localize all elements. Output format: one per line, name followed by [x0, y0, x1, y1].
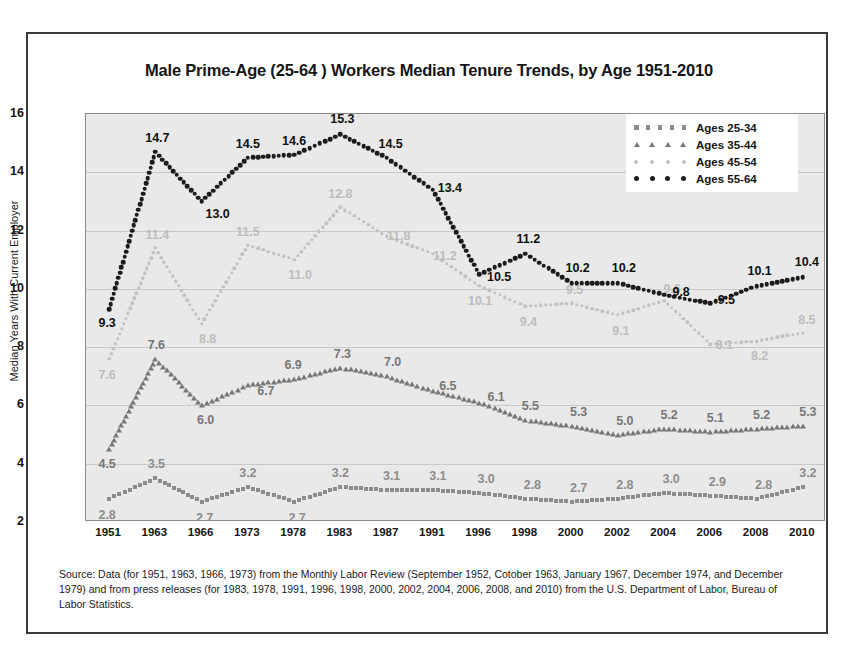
data-label: 5.2	[753, 408, 770, 422]
data-label: 11.8	[387, 229, 411, 243]
legend-item-ages-45-54[interactable]: Ages 45-54	[632, 153, 792, 170]
data-point-marker	[142, 186, 147, 191]
data-label: 2.8	[755, 478, 772, 492]
data-label: 3.0	[662, 472, 679, 486]
data-label: 9.8	[672, 285, 689, 299]
x-tick-label: 1963	[142, 526, 168, 538]
data-label: 8.8	[199, 332, 216, 346]
data-label: 8.1	[716, 338, 733, 352]
data-point-marker	[307, 146, 312, 151]
data-point-marker	[482, 270, 487, 275]
legend-item-ages-35-44[interactable]: Ages 35-44	[632, 136, 792, 153]
data-point-marker	[657, 291, 662, 296]
x-tick-label: 1991	[419, 526, 445, 538]
x-tick-label: 2004	[650, 526, 676, 538]
data-point-marker	[605, 281, 610, 286]
data-point-marker	[626, 283, 631, 288]
data-label: 3.0	[477, 472, 494, 486]
data-point-marker	[133, 218, 138, 223]
data-label: 5.1	[707, 411, 724, 425]
data-point-marker	[492, 265, 497, 270]
data-point-marker	[115, 281, 120, 286]
data-point-marker	[790, 277, 795, 282]
data-point-marker	[744, 288, 749, 293]
x-tick-label: 1973	[234, 526, 260, 538]
legend-item-ages-25-34[interactable]: Ages 25-34	[632, 119, 792, 136]
data-point-marker	[333, 134, 338, 139]
data-point-marker	[150, 160, 155, 165]
data-label: 5.5	[522, 399, 539, 413]
data-point-marker	[144, 181, 149, 186]
data-label: 3.2	[239, 466, 256, 480]
data-point-marker	[148, 165, 153, 170]
data-point-marker	[246, 155, 251, 160]
legend-label: Ages 35-44	[696, 139, 757, 151]
data-point-marker	[251, 155, 256, 160]
data-point-marker	[795, 276, 800, 281]
x-tick-label: 1996	[465, 526, 491, 538]
chart-title: Male Prime-Age (25-64 ) Workers Median T…	[28, 61, 830, 80]
data-label: 7.6	[98, 368, 115, 382]
data-label: 15.3	[330, 113, 354, 126]
data-point-marker	[111, 291, 116, 296]
legend-item-ages-55-64[interactable]: Ages 55-64	[632, 170, 792, 187]
y-tick-label: 16	[0, 106, 24, 120]
data-label: 2.8	[98, 508, 115, 521]
data-point-marker	[585, 281, 590, 286]
x-tick-label: 1966	[188, 526, 214, 538]
data-point-marker	[785, 278, 790, 283]
data-label: 5.3	[570, 405, 587, 419]
data-label: 9.4	[520, 315, 537, 329]
y-tick-label: 12	[0, 223, 24, 237]
data-label: 5.0	[616, 414, 633, 428]
data-label: 10.1	[747, 264, 771, 278]
data-point-marker	[739, 289, 744, 294]
legend-marker-circle-icon	[632, 173, 688, 185]
data-point-marker	[287, 153, 292, 158]
data-label: 14.6	[282, 134, 306, 148]
data-point-marker	[765, 282, 770, 287]
data-label: 6.0	[197, 413, 214, 427]
data-point-marker	[130, 228, 135, 233]
y-tick-label: 2	[0, 514, 24, 528]
chart-legend: Ages 25-34Ages 35-44Ages 45-54Ages 55-64	[626, 114, 798, 192]
data-point-marker	[328, 137, 333, 142]
data-point-marker	[138, 202, 143, 207]
data-point-marker	[107, 307, 112, 312]
legend-marker-square-icon	[632, 122, 688, 134]
data-point-marker	[271, 154, 276, 159]
data-label: 10.4	[795, 255, 819, 269]
data-label: 14.5	[378, 137, 402, 151]
data-label: 10.2	[612, 261, 636, 275]
data-label: 5.3	[799, 405, 816, 419]
data-point-marker	[636, 286, 641, 291]
x-tick-label: 1987	[373, 526, 399, 538]
data-label: 10.2	[565, 261, 589, 275]
data-label: 3.5	[148, 457, 165, 471]
data-point-marker	[749, 286, 754, 291]
data-point-marker	[108, 302, 113, 307]
data-point-marker	[616, 281, 621, 286]
data-label: 7.6	[148, 338, 165, 352]
data-point-marker	[323, 139, 328, 144]
data-label: 11.2	[433, 249, 457, 263]
data-label: 2.7	[288, 511, 305, 521]
data-label: 14.7	[145, 131, 169, 145]
data-point-marker	[312, 143, 317, 148]
data-point-marker	[152, 155, 157, 160]
legend-marker-star-icon	[632, 156, 688, 168]
data-label: 3.1	[429, 469, 446, 483]
data-point-marker	[693, 298, 698, 303]
data-point-marker	[770, 281, 775, 286]
data-point-marker	[261, 154, 266, 159]
data-point-marker	[145, 176, 150, 181]
data-point-marker	[631, 285, 636, 290]
data-point-marker	[600, 281, 605, 286]
data-label: 12.8	[328, 187, 352, 201]
data-point-marker	[318, 141, 323, 146]
y-tick-label: 14	[0, 164, 24, 178]
data-point-marker	[503, 261, 508, 266]
x-tick-label: 2000	[558, 526, 584, 538]
data-point-marker	[110, 296, 115, 301]
data-label: 6.7	[257, 384, 274, 398]
